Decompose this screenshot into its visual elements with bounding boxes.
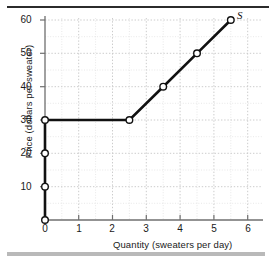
x-tick-label: 6 bbox=[237, 223, 259, 234]
data-point-marker bbox=[194, 50, 201, 57]
y-axis-title: Price (dollars per sweater) bbox=[23, 22, 34, 182]
data-point-marker bbox=[160, 83, 167, 90]
major-gridlines-horizontal bbox=[45, 20, 262, 187]
origin-tick-label: 0 bbox=[34, 223, 56, 234]
data-point-marker bbox=[42, 183, 49, 190]
x-axis-title: Quantity (sweaters per day) bbox=[113, 239, 232, 250]
data-point-marker bbox=[42, 150, 49, 157]
data-point-marker bbox=[42, 117, 49, 124]
data-point-marker bbox=[228, 17, 235, 24]
x-tick-label: 3 bbox=[135, 223, 157, 234]
x-tick-label: 5 bbox=[203, 223, 225, 234]
x-tick-label: 1 bbox=[68, 223, 90, 234]
x-tick-label: 2 bbox=[101, 223, 123, 234]
x-tick-label: 4 bbox=[169, 223, 191, 234]
supply-curve-label: S bbox=[237, 9, 243, 21]
figure-container: 60 50 40 30 20 10 0 1 2 3 4 5 6 Price (d… bbox=[0, 0, 273, 262]
data-point-marker bbox=[126, 117, 133, 124]
y-tick-label: 10 bbox=[15, 181, 37, 192]
